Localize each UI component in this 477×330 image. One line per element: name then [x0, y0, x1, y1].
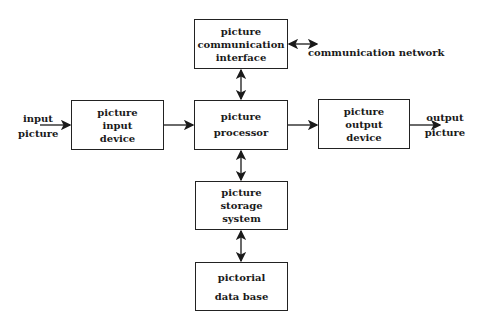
node-picture-storage-system: picture storage system [195, 181, 288, 230]
node-label-line: input [103, 119, 133, 132]
node-label-line: picture [344, 105, 384, 118]
node-label-line: picture [221, 186, 261, 199]
label-line: picture [18, 126, 58, 141]
node-pictorial-data-base: pictorial data base [195, 262, 288, 311]
node-label-line: output [345, 118, 382, 131]
node-picture-output-device: picture output device [318, 99, 410, 149]
node-label-line: picture [221, 25, 261, 38]
node-label-line: picture [221, 109, 261, 125]
label-line: picture [420, 125, 470, 140]
label-communication-network: communication network [308, 45, 428, 60]
node-picture-processor: picture processor [194, 100, 288, 150]
node-label-line: device [100, 132, 135, 145]
node-picture-communication-interface: picture communication interface [194, 19, 288, 69]
node-picture-input-device: picture input device [71, 100, 164, 150]
node-label-line: communication [197, 38, 284, 51]
node-label-line: data base [215, 287, 269, 306]
node-label-line: device [346, 131, 381, 144]
node-label-line: interface [216, 51, 267, 64]
label-line: input [18, 111, 58, 126]
node-label-line: processor [214, 125, 269, 141]
label-line: output [420, 110, 470, 125]
node-label-line: pictorial [218, 268, 266, 287]
label-input-picture: input picture [18, 111, 58, 141]
label-output-picture: output picture [420, 110, 470, 140]
node-label-line: storage [220, 199, 262, 212]
node-label-line: system [222, 212, 261, 225]
node-label-line: picture [97, 106, 137, 119]
